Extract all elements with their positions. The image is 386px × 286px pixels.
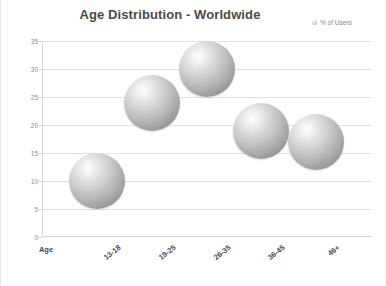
- chart-container: Age Distribution - Worldwide % of Users …: [0, 0, 386, 286]
- y-axis-line: [42, 41, 43, 237]
- legend-sphere-marker-icon: [312, 20, 317, 25]
- y-tick-label: 15: [8, 150, 38, 157]
- gridline: [42, 97, 371, 98]
- x-tick-label: 36-45: [266, 243, 287, 262]
- x-axis: Age13-1819-2526-3536-4546+: [0, 240, 386, 286]
- x-tick-label: 13-18: [102, 243, 123, 262]
- y-axis: 05101520253035: [4, 41, 38, 237]
- y-tick-label: 10: [8, 178, 38, 185]
- legend-label: % of Users: [320, 19, 352, 26]
- chart-title: Age Distribution - Worldwide: [0, 7, 340, 22]
- y-tick-label: 25: [8, 94, 38, 101]
- y-tick-label: 20: [8, 122, 38, 129]
- x-tick-label: 46+: [326, 243, 342, 258]
- y-tick-label: 5: [8, 206, 38, 213]
- data-point-bubble[interactable]: [179, 41, 235, 97]
- y-tick-label: 35: [8, 38, 38, 45]
- chart-legend: % of Users: [312, 19, 352, 26]
- plot-area: [42, 41, 371, 237]
- gridline: [42, 209, 371, 210]
- data-point-bubble[interactable]: [124, 75, 180, 131]
- x-tick-label: 26-35: [211, 243, 232, 262]
- x-axis-corner-label: Age: [39, 245, 53, 254]
- y-tick-mark: [39, 237, 42, 238]
- x-axis-line: [42, 236, 371, 237]
- x-tick-label: 19-25: [157, 243, 178, 262]
- data-point-bubble[interactable]: [288, 114, 344, 170]
- data-point-bubble[interactable]: [233, 103, 289, 159]
- y-tick-label: 30: [8, 66, 38, 73]
- data-point-bubble[interactable]: [69, 153, 125, 209]
